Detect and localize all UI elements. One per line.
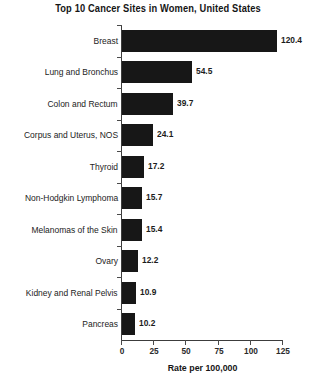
y-axis-tick — [117, 120, 122, 121]
bar-row: 15.4 — [122, 219, 283, 241]
x-axis-tick-label: 125 — [276, 346, 290, 356]
bar-row: 120.4 — [122, 30, 283, 52]
bar-value-label: 17.2 — [148, 161, 164, 171]
y-axis-tick — [117, 88, 122, 89]
bar — [122, 313, 135, 335]
bar — [122, 156, 144, 178]
y-axis-tick — [117, 57, 122, 58]
x-axis-tick — [121, 340, 122, 345]
category-label-text: Corpus and Uterus, NOS — [24, 130, 118, 140]
y-axis-tick — [117, 151, 122, 152]
y-axis-tick — [117, 277, 122, 278]
bar-value-label: 54.5 — [196, 66, 212, 76]
category-label: Colon and Rectum — [0, 99, 118, 109]
category-label: Lung and Bronchus — [0, 67, 118, 77]
bar — [122, 61, 192, 83]
bar-row: 12.2 — [122, 250, 283, 272]
y-axis-tick — [117, 214, 122, 215]
bar — [122, 250, 138, 272]
bar-row: 10.9 — [122, 282, 283, 304]
y-axis-tick — [117, 309, 122, 310]
bar-value-label: 15.7 — [146, 192, 162, 202]
x-axis-tick — [282, 340, 283, 345]
x-axis-tick — [218, 340, 219, 345]
bar-row: 15.7 — [122, 187, 283, 209]
category-label-text: Ovary — [95, 256, 118, 266]
bar-value-label: 10.9 — [140, 287, 156, 297]
category-axis-labels: BreastLung and BronchusColon and RectumC… — [0, 25, 118, 340]
bar — [122, 282, 136, 304]
bar-row: 24.1 — [122, 124, 283, 146]
bar — [122, 124, 153, 146]
bar — [122, 219, 142, 241]
bar-value-label: 120.4 — [281, 35, 302, 45]
bar-value-label: 15.4 — [146, 224, 162, 234]
chart-title: Top 10 Cancer Sites in Women, United Sta… — [11, 3, 305, 14]
x-axis-line — [121, 340, 283, 341]
bar — [122, 30, 277, 52]
category-label-text: Pancreas — [82, 319, 118, 329]
category-label-text: Colon and Rectum — [48, 99, 118, 109]
bar-row: 10.2 — [122, 313, 283, 335]
category-label: Breast — [0, 36, 118, 46]
bar-row: 39.7 — [122, 93, 283, 115]
category-label: Melanomas of the Skin — [0, 225, 118, 235]
x-axis-tick — [185, 340, 186, 345]
y-axis-tick — [117, 25, 122, 26]
x-axis-tick-label: 50 — [182, 346, 191, 356]
category-label: Ovary — [0, 256, 118, 266]
category-label-text: Non-Hodgkin Lymphoma — [25, 193, 118, 203]
bar-value-label: 39.7 — [177, 98, 193, 108]
bar-value-label: 24.1 — [157, 129, 173, 139]
x-axis-tick-label: 0 — [120, 346, 125, 356]
bar-value-label: 10.2 — [139, 318, 155, 328]
y-axis-tick — [117, 183, 122, 184]
category-label-text: Melanomas of the Skin — [32, 225, 118, 235]
category-label: Thyroid — [0, 162, 118, 172]
category-label: Non-Hodgkin Lymphoma — [0, 193, 118, 203]
bar — [122, 93, 173, 115]
category-label-text: Lung and Bronchus — [45, 67, 118, 77]
bar — [122, 187, 142, 209]
x-axis-tick — [250, 340, 251, 345]
bar-value-label: 12.2 — [142, 255, 158, 265]
x-axis-title-text: Rate per 100,000 — [168, 362, 238, 373]
plot-area: 0255075100125120.454.539.724.117.215.715… — [122, 25, 283, 340]
x-axis-tick-label: 75 — [214, 346, 223, 356]
bar-row: 54.5 — [122, 61, 283, 83]
chart-figure: Top 10 Cancer Sites in Women, United Sta… — [0, 0, 316, 389]
category-label: Pancreas — [0, 319, 118, 329]
x-axis-tick-label: 100 — [244, 346, 258, 356]
category-label-text: Thyroid — [90, 162, 118, 172]
category-label-text: Kidney and Renal Pelvis — [26, 288, 118, 298]
x-axis-tick — [153, 340, 154, 345]
category-label-text: Breast — [94, 36, 118, 46]
category-label: Corpus and Uterus, NOS — [0, 130, 118, 140]
x-axis-title: Rate per 100,000 — [122, 362, 283, 373]
y-axis-tick — [117, 246, 122, 247]
bar-row: 17.2 — [122, 156, 283, 178]
category-label: Kidney and Renal Pelvis — [0, 288, 118, 298]
x-axis-tick-label: 25 — [150, 346, 159, 356]
